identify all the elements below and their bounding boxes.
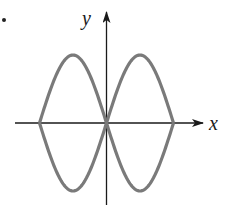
figure: y x bbox=[0, 0, 229, 214]
y-axis-label: y bbox=[82, 8, 91, 28]
x-axis-label: x bbox=[209, 113, 218, 133]
plot-canvas bbox=[0, 0, 229, 214]
